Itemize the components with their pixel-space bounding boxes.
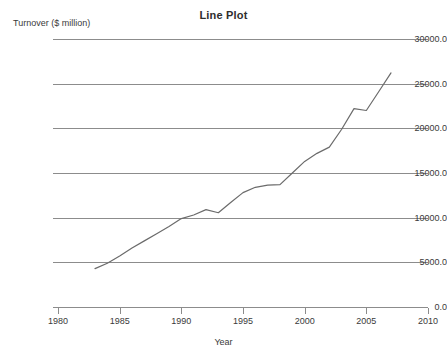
x-axis-tick-mark xyxy=(120,308,121,314)
y-axis-tick-mark xyxy=(53,218,58,219)
line-plot-figure: Line Plot Turnover ($ million) 0.05000.0… xyxy=(0,0,447,357)
y-axis-tick-label: 30000.0 xyxy=(391,34,447,44)
x-axis-tick-label: 2005 xyxy=(356,316,376,326)
x-axis-tick-mark xyxy=(428,308,429,314)
x-axis-tick-mark xyxy=(305,308,306,314)
x-axis-tick-label: 1985 xyxy=(110,316,130,326)
x-axis-tick-label: 2000 xyxy=(295,316,315,326)
y-axis-tick-mark xyxy=(53,128,58,129)
x-axis-tick-label: 1995 xyxy=(233,316,253,326)
y-axis-tick-label: 20000.0 xyxy=(391,123,447,133)
x-axis-label: Year xyxy=(0,337,447,347)
y-axis-tick-mark xyxy=(53,84,58,85)
y-axis-tick-label: 10000.0 xyxy=(391,213,447,223)
series-line-turnover xyxy=(58,39,428,307)
x-axis-tick-label: 2010 xyxy=(418,316,438,326)
x-axis-tick-label: 1980 xyxy=(48,316,68,326)
y-axis-tick-label: 5000.0 xyxy=(391,257,447,267)
x-axis-tick-mark xyxy=(243,308,244,314)
y-axis-tick-mark xyxy=(53,39,58,40)
y-axis-tick-label: 15000.0 xyxy=(391,168,447,178)
x-axis-tick-mark xyxy=(181,308,182,314)
y-axis-tick-mark xyxy=(53,173,58,174)
plot-area xyxy=(58,39,428,307)
y-axis-label: Turnover ($ million) xyxy=(13,18,90,28)
x-axis-tick-mark xyxy=(366,308,367,314)
y-axis-tick-mark xyxy=(53,262,58,263)
y-axis-tick-label: 25000.0 xyxy=(391,79,447,89)
x-axis-tick-label: 1990 xyxy=(171,316,191,326)
x-axis-tick-mark xyxy=(58,308,59,314)
